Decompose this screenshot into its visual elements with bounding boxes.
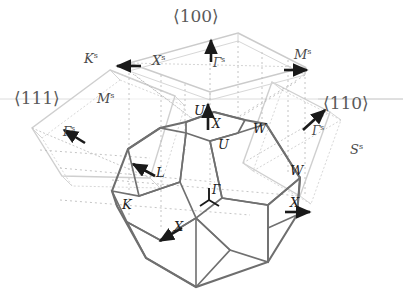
bulk-point-U-lower: U xyxy=(218,138,229,151)
surface-point-K-100-superscript: s xyxy=(94,51,98,60)
surface-point-X-100: Xs xyxy=(152,54,165,67)
surface-point-M-111: Ms xyxy=(97,92,114,105)
bulk-point-L: L xyxy=(156,166,165,179)
bulk-point-W-upper: W xyxy=(253,122,266,135)
surface-point-M-100-base: M xyxy=(294,47,307,62)
surface-point-S-110-base: S xyxy=(350,142,359,157)
surface-zone-110-edge-c xyxy=(300,196,311,204)
direction-111: ⟨111⟩ xyxy=(14,90,60,107)
surface-point-K-100: Ks xyxy=(84,52,98,65)
surface-point-M-111-base: M xyxy=(97,91,110,106)
surface-point-Gamma-100-superscript: s xyxy=(221,55,225,64)
bulk-point-W-right: W xyxy=(290,164,303,177)
surface-point-S-110: Ss xyxy=(350,143,363,156)
bulk-point-K: K xyxy=(122,198,132,211)
surface-point-M-100-superscript: s xyxy=(307,47,311,56)
surface-point-Gamma-110: Γs xyxy=(312,124,324,137)
bulk-point-X-right: X xyxy=(290,196,299,209)
surface-point-Gamma-111: Γs xyxy=(63,125,75,138)
brillouin-zone-figure: ⟨100⟩⟨111⟩⟨110⟩ KsXsΓsMsMsΓsΓsSs UXWULWΓ… xyxy=(0,0,403,304)
bulk-point-X-bottom: X xyxy=(174,220,183,233)
surface-point-M-111-superscript: s xyxy=(110,91,114,100)
surface-point-S-110-superscript: s xyxy=(359,142,363,151)
surface-point-Gamma-100: Γs xyxy=(213,56,225,69)
figure-canvas xyxy=(0,0,403,304)
bulk-point-X-top: X xyxy=(212,118,221,130)
direction-110: ⟨110⟩ xyxy=(323,95,369,112)
surface-point-X-100-base: X xyxy=(152,53,161,68)
bulk-point-Gamma-center: Γ xyxy=(212,184,220,196)
surface-zone-110-edge-b xyxy=(330,112,341,120)
surface-point-K-100-base: K xyxy=(84,51,94,66)
bulk-point-U-upper: U xyxy=(194,104,205,117)
surface-point-M-100: Ms xyxy=(294,48,311,61)
surface-point-X-100-superscript: s xyxy=(161,53,165,62)
surface-point-Gamma-111-superscript: s xyxy=(71,124,75,133)
surface-point-Gamma-110-superscript: s xyxy=(320,123,324,132)
direction-100: ⟨100⟩ xyxy=(173,8,219,25)
